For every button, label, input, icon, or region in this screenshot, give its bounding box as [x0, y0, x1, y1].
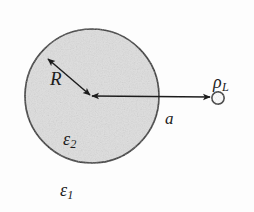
outer-permittivity-label: ε1: [60, 181, 73, 202]
outer-permittivity-subscript: 1: [67, 188, 73, 202]
radius-label: R: [50, 69, 62, 88]
inner-permittivity-subscript: 2: [70, 137, 76, 151]
distance-label-symbol: a: [165, 109, 174, 128]
diagram-canvas: [0, 0, 254, 212]
line-charge-subscript: L: [222, 80, 229, 94]
distance-arrow: [92, 96, 210, 97]
line-charge-label: ρL: [213, 73, 229, 94]
physics-diagram-figure: R ε2 ε1 a ρL: [0, 0, 254, 212]
distance-label: a: [165, 110, 174, 127]
inner-permittivity-label: ε2: [63, 130, 76, 151]
line-charge-symbol: ρ: [213, 72, 222, 92]
radius-label-symbol: R: [50, 68, 62, 89]
